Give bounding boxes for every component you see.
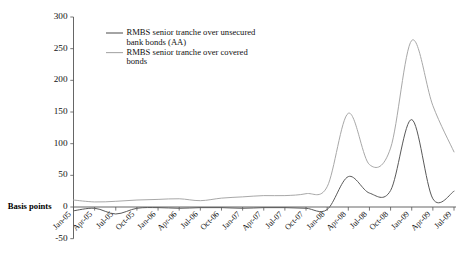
legend-label-1-cont: bank bonds (AA) — [127, 37, 187, 47]
y-tick-label: -50 — [55, 233, 68, 243]
x-tick-group: Jan-05Apr-05Jul-05Oct-05Jan-06Apr-06Jul-… — [51, 207, 454, 233]
y-tick-label: 200 — [54, 74, 68, 84]
chart-container: -50050100150200250300 Jan-05Apr-05Jul-05… — [0, 0, 465, 267]
legend-label-2: RMBS senior tranche over covered — [127, 47, 249, 57]
legend-label-2-cont: bonds — [127, 56, 148, 66]
x-tick-label: Apr-08 — [325, 210, 348, 233]
x-tick-label: Jul-08 — [348, 210, 369, 231]
series-line-1 — [74, 120, 455, 214]
x-tick-label: Jul-07 — [263, 210, 284, 231]
chart-legend: RMBS senior tranche over unsecuredbank b… — [106, 27, 256, 66]
line-chart: -50050100150200250300 Jan-05Apr-05Jul-05… — [0, 0, 465, 267]
y-tick-label: 300 — [54, 11, 68, 21]
y-tick-group: -50050100150200250300 — [54, 11, 74, 243]
x-axis: Jan-05Apr-05Jul-05Oct-05Jan-06Apr-06Jul-… — [51, 207, 456, 233]
x-tick-label: Jan-08 — [305, 210, 327, 232]
y-tick-label: 50 — [58, 169, 68, 179]
x-tick-label: Oct-08 — [368, 210, 390, 232]
x-tick-label: Jan-07 — [220, 210, 242, 232]
x-tick-label: Apr-05 — [71, 210, 94, 233]
x-tick-label: Jul-05 — [94, 210, 115, 231]
x-tick-label: Oct-05 — [114, 210, 136, 232]
y-axis: -50050100150200250300 — [54, 11, 74, 243]
legend-label-1: RMBS senior tranche over unsecured — [127, 27, 257, 37]
x-tick-label: Apr-07 — [240, 210, 263, 233]
x-tick-label: Jul-06 — [179, 210, 200, 231]
x-tick-label: Apr-09 — [409, 210, 432, 233]
x-tick-label: Jan-05 — [51, 210, 73, 232]
y-tick-label: 250 — [54, 43, 68, 53]
y-tick-label: 150 — [54, 106, 68, 116]
x-tick-label: Oct-06 — [198, 210, 220, 232]
x-tick-label: Jan-06 — [136, 210, 158, 232]
y-tick-label: 100 — [54, 138, 68, 148]
x-tick-label: Oct-07 — [283, 210, 305, 232]
x-tick-label: Apr-06 — [156, 210, 179, 233]
x-tick-label: Jul-09 — [433, 210, 454, 231]
y-axis-title: Basis points — [8, 201, 52, 211]
x-tick-label: Jan-09 — [389, 210, 411, 232]
